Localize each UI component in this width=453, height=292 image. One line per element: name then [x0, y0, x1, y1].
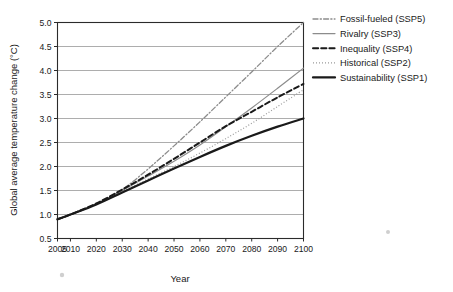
x-tick-label: 2070 [216, 244, 235, 254]
temperature-projection-chart: 0.51.01.52.02.53.03.54.04.55.0 200520102… [0, 0, 453, 292]
x-tick-label: 2090 [268, 244, 287, 254]
y-tick-label: 5.0 [40, 18, 52, 28]
y-axis-title: Global average temperature change (°C) [8, 44, 19, 216]
x-tick-label: 2060 [190, 244, 209, 254]
y-tick-label: 2.5 [40, 138, 52, 148]
y-tick-label: 0.5 [40, 234, 52, 244]
x-tick-label: 2010 [61, 244, 80, 254]
x-axis-title: Year [170, 273, 189, 284]
x-tick-label: 2040 [139, 244, 158, 254]
x-tick-label: 2020 [87, 244, 106, 254]
scan-speck [60, 273, 64, 277]
x-tick-label: 2080 [242, 244, 261, 254]
legend-label-ssp1: Sustainability (SSP1) [340, 73, 427, 83]
y-tick-label: 3.5 [40, 90, 52, 100]
x-tick-label: 2100 [294, 244, 313, 254]
y-tick-label: 2.0 [40, 162, 52, 172]
x-tick-labels: 2005201020202030204020502060207020802090… [48, 244, 313, 254]
y-tick-label: 1.0 [40, 210, 52, 220]
y-tick-label: 1.5 [40, 186, 52, 196]
scan-speck [386, 230, 390, 234]
y-tick-label: 4.0 [40, 66, 52, 76]
x-tick-label: 2030 [113, 244, 132, 254]
legend-label-ssp3: Rivalry (SSP3) [340, 29, 401, 39]
x-tick-label: 2050 [164, 244, 183, 254]
legend-label-ssp5: Fossil-fueled (SSP5) [340, 14, 425, 24]
y-tick-label: 4.5 [40, 42, 52, 52]
legend-label-ssp4: Inequality (SSP4) [340, 44, 412, 54]
y-tick-label: 3.0 [40, 114, 52, 124]
legend-label-ssp2: Historical (SSP2) [340, 58, 411, 68]
chart-figure: 0.51.01.52.02.53.03.54.04.55.0 200520102… [0, 0, 453, 292]
